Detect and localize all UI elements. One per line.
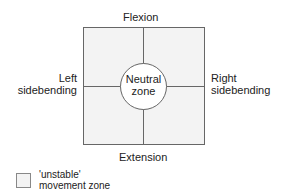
- label-right-line1: Right: [211, 72, 270, 84]
- legend-swatch: [17, 174, 31, 188]
- label-left-sidebending: Left sidebending: [18, 72, 77, 96]
- label-neutral-line1: Neutral: [120, 73, 167, 85]
- legend-line1: 'unstable': [39, 169, 110, 180]
- label-flexion: Flexion: [123, 11, 158, 23]
- legend-line2: movement zone: [39, 180, 110, 191]
- label-right-sidebending: Right sidebending: [211, 72, 270, 96]
- label-left-line1: Left: [18, 72, 77, 84]
- label-neutral-line2: zone: [120, 85, 167, 97]
- legend-text: 'unstable' movement zone: [39, 169, 110, 191]
- label-right-line2: sidebending: [211, 84, 270, 96]
- label-neutral-zone: Neutral zone: [120, 73, 167, 97]
- neutral-zone-diagram: [0, 0, 284, 194]
- label-extension: Extension: [119, 151, 167, 163]
- label-left-line2: sidebending: [18, 84, 77, 96]
